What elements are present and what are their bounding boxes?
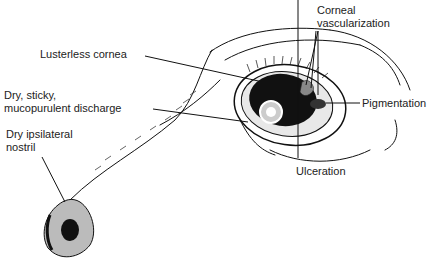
label-discharge-line2: mucopurulent discharge: [4, 102, 121, 115]
label-lusterless-cornea: Lusterless cornea: [40, 48, 127, 61]
label-discharge-line1: Dry, sticky,: [4, 89, 56, 102]
label-corneal-vascularization-line2: vascularization: [317, 17, 390, 30]
muzzle-line: [70, 50, 212, 200]
nose: [44, 199, 93, 256]
leader-discharge: [153, 109, 248, 122]
leader-nostril: [42, 157, 65, 202]
label-nostril-line2: nostril: [6, 141, 35, 154]
label-nostril-line1: Dry ipsilateral: [6, 128, 73, 141]
label-pigmentation: Pigmentation: [362, 97, 426, 110]
eye: [229, 56, 351, 152]
leader-lusterless-cornea: [145, 56, 272, 84]
label-corneal-vascularization-line1: Corneal: [317, 4, 356, 17]
label-ulceration: Ulceration: [296, 165, 346, 178]
